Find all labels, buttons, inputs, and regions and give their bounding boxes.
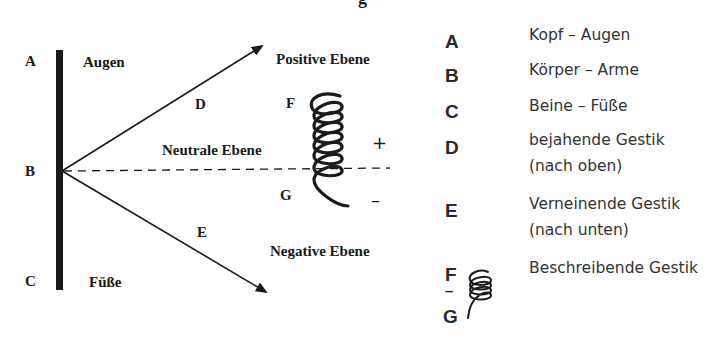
label-fuesse: Füße: [89, 274, 122, 291]
legend-key-e: E: [445, 200, 458, 222]
legend-key-sep: –: [445, 282, 453, 299]
legend-text-e-sub: (nach unten): [529, 218, 629, 242]
legend-key-c: C: [445, 101, 459, 123]
label-augen: Augen: [83, 54, 125, 71]
point-label-c: C: [25, 273, 36, 290]
spring-coil-icon: [311, 94, 348, 206]
label-g: G: [280, 187, 292, 204]
label-d: D: [195, 96, 206, 113]
legend-text-d: bejahende Gestik: [529, 128, 665, 152]
legend-text-d-sub: (nach oben): [529, 154, 622, 178]
label-negative-plane: Negative Ebene: [270, 243, 370, 260]
label-neutral-plane: Neutrale Ebene: [162, 142, 262, 159]
legend-text-a: Kopf – Augen: [529, 23, 630, 47]
legend-key-d: D: [445, 137, 459, 159]
legend-key-a: A: [445, 31, 459, 53]
legend-text-c: Beine – Füße: [529, 94, 628, 118]
plus-sign: +: [372, 132, 387, 153]
label-positive-plane: Positive Ebene: [276, 51, 370, 68]
legend-text-fg: Beschreibende Gestik: [529, 256, 698, 280]
point-label-a: A: [25, 53, 36, 70]
legend-text-b: Körper – Arme: [529, 58, 639, 82]
label-e: E: [197, 224, 207, 241]
legend-spring-icon: [468, 271, 491, 318]
point-label-b: B: [25, 163, 35, 180]
legend-key-g: G: [443, 306, 458, 328]
legend-key-b: B: [445, 65, 459, 87]
minus-sign: –: [371, 189, 380, 210]
body-axis-bar: [56, 50, 63, 290]
label-f: F: [286, 95, 295, 112]
legend-text-e: Verneinende Gestik: [529, 192, 680, 216]
